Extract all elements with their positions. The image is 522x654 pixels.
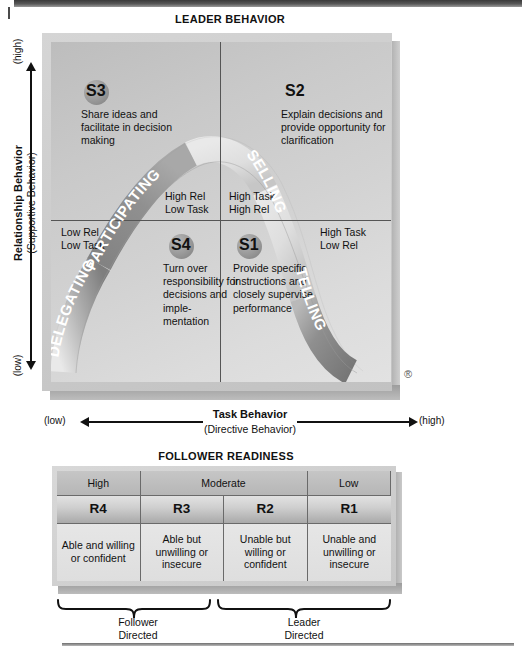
readiness-table-wrap: High Moderate Low R4 R3 R2 R1 Able and w… bbox=[52, 466, 404, 594]
readiness-code-r3: R3 bbox=[141, 495, 225, 523]
leader-behavior-title: LEADER BEHAVIOR bbox=[0, 13, 460, 25]
s2-description: Explain decisions and provide opportunit… bbox=[281, 108, 391, 148]
readiness-desc-r2: Unable but willing or confident bbox=[224, 523, 308, 581]
page-top-rule-notch bbox=[0, 0, 14, 7]
y-axis-subtitle: (Supportive Behavior) bbox=[25, 88, 38, 318]
label-high-rel-low-task: High Rel Low Task bbox=[165, 190, 209, 216]
leader-directed-label: Leader Directed bbox=[244, 616, 364, 642]
readiness-desc-r1: Unable and unwilling or insecure bbox=[308, 523, 392, 581]
label-high-task-high-rel: High Task High Rel bbox=[229, 190, 275, 216]
s1-description: Provide specific instructions and closel… bbox=[233, 262, 313, 315]
quadrant-vertical-divider bbox=[220, 42, 221, 382]
x-axis-right-arrow-icon bbox=[409, 417, 418, 427]
readiness-level-row: High Moderate Low bbox=[57, 471, 391, 495]
chart-plot-area: DELEGATING PARTICIPATING SELLI bbox=[51, 42, 391, 382]
readiness-row-divider-2 bbox=[57, 523, 391, 524]
readiness-code-r4: R4 bbox=[57, 495, 141, 523]
s3-code: S3 bbox=[86, 82, 106, 100]
s3-description: Share ideas and facilitate in decision m… bbox=[81, 108, 186, 148]
page-bottom-rule bbox=[62, 643, 514, 646]
readiness-desc-r4: Able and willing or confident bbox=[57, 523, 141, 581]
readiness-code-r2: R2 bbox=[224, 495, 308, 523]
y-axis-high-label: (high) bbox=[12, 29, 23, 75]
readiness-row-divider-1 bbox=[57, 495, 391, 496]
y-axis-label-group: Relationship Behavior (Supportive Behavi… bbox=[12, 88, 38, 318]
registered-trademark-icon: ® bbox=[404, 368, 412, 380]
readiness-table: High Moderate Low R4 R3 R2 R1 Able and w… bbox=[57, 471, 391, 581]
readiness-code-row: R4 R3 R2 R1 bbox=[57, 495, 391, 523]
quadrant-horizontal-divider bbox=[51, 220, 391, 221]
task-behavior-axis: (low) Task Behavior (Directive Behavior)… bbox=[40, 406, 460, 442]
follower-directed-label: Follower Directed bbox=[78, 616, 198, 642]
situational-leadership-figure: LEADER BEHAVIOR (high) (low) Relationshi… bbox=[0, 0, 522, 654]
s2-code: S2 bbox=[285, 82, 305, 100]
readiness-code-r1: R1 bbox=[308, 495, 392, 523]
relationship-behavior-axis: (high) (low) Relationship Behavior (Supp… bbox=[0, 30, 44, 398]
readiness-level-high: High bbox=[57, 471, 141, 495]
label-high-task-low-rel: High Task Low Rel bbox=[320, 226, 366, 252]
readiness-level-moderate: Moderate bbox=[141, 471, 308, 495]
x-axis-low-label: (low) bbox=[44, 415, 66, 426]
x-axis-title: Task Behavior bbox=[168, 408, 332, 420]
readiness-level-low: Low bbox=[308, 471, 392, 495]
follower-readiness-title: FOLLOWER READINESS bbox=[0, 450, 452, 462]
label-low-rel-low-task: Low Rel Low Task bbox=[61, 226, 105, 252]
direction-brackets: Follower Directed Leader Directed bbox=[52, 598, 404, 648]
x-axis-high-label: (high) bbox=[419, 415, 445, 426]
y-axis-down-arrow-icon bbox=[26, 361, 36, 370]
leader-behavior-chart: DELEGATING PARTICIPATING SELLI bbox=[42, 33, 400, 400]
readiness-desc-r3: Able but unwilling or insecure bbox=[141, 523, 225, 581]
s4-code: S4 bbox=[171, 236, 191, 254]
y-axis-title: Relationship Behavior bbox=[12, 88, 25, 318]
y-axis-low-label: (low) bbox=[12, 343, 23, 389]
x-axis-right-line bbox=[297, 421, 410, 423]
readiness-description-row: Able and willing or confident Able but u… bbox=[57, 523, 391, 581]
x-axis-subtitle: (Directive Behavior) bbox=[158, 423, 342, 435]
s1-code: S1 bbox=[239, 236, 259, 254]
page-top-rule bbox=[0, 0, 522, 7]
